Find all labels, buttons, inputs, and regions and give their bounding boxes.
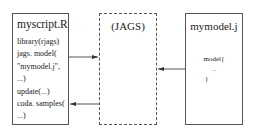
arrows-layer [0,0,253,134]
